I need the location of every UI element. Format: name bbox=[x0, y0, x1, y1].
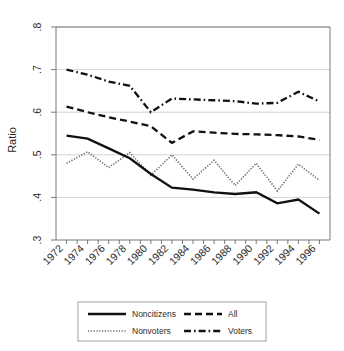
x-axis-tick-labels: 1972197419761978198019821984198619881990… bbox=[40, 242, 318, 267]
y-tick-label: .6 bbox=[31, 108, 43, 117]
x-tick-label: 1978 bbox=[103, 242, 128, 267]
y-tick-label: .5 bbox=[31, 150, 43, 159]
x-tick-label: 1992 bbox=[251, 242, 276, 267]
y-tick-label: .4 bbox=[31, 193, 43, 202]
legend-label-all: All bbox=[228, 309, 238, 319]
x-tick-label: 1988 bbox=[209, 242, 234, 267]
y-tick-label: .8 bbox=[31, 22, 43, 31]
data-series-group bbox=[67, 70, 320, 214]
series-line-noncitizens bbox=[67, 136, 320, 214]
x-tick-label: 1996 bbox=[293, 242, 318, 267]
y-axis-tick-labels: .8.7.6.5.4.3 bbox=[31, 22, 43, 244]
gridlines bbox=[56, 27, 330, 197]
x-tick-label: 1986 bbox=[187, 242, 212, 267]
legend-label-nonvoters: Nonvoters bbox=[132, 326, 171, 336]
x-tick-label: 1972 bbox=[40, 242, 65, 267]
chart-figure: .8.7.6.5.4.3 197219741976197819801982198… bbox=[0, 0, 344, 351]
line-chart: .8.7.6.5.4.3 197219741976197819801982198… bbox=[0, 0, 344, 351]
x-tick-label: 1994 bbox=[272, 242, 297, 267]
series-line-voters bbox=[67, 70, 320, 113]
x-tick-label: 1976 bbox=[82, 242, 107, 267]
y-tick-label: .3 bbox=[31, 235, 43, 244]
y-tick-label: .7 bbox=[31, 65, 43, 74]
x-tick-label: 1980 bbox=[124, 242, 149, 267]
legend-label-noncitizens: Noncitizens bbox=[132, 309, 176, 319]
x-tick-label: 1974 bbox=[61, 242, 86, 267]
plot-frame bbox=[56, 27, 330, 240]
x-tick-label: 1982 bbox=[145, 242, 170, 267]
legend-label-voters: Voters bbox=[228, 326, 252, 336]
series-line-nonvoters bbox=[67, 152, 320, 191]
x-tick-label: 1984 bbox=[166, 242, 191, 267]
chart-legend: NoncitizensAllNonvotersVoters bbox=[78, 302, 266, 341]
x-tick-label: 1990 bbox=[230, 242, 255, 267]
y-axis-title: Ratio bbox=[6, 127, 18, 153]
